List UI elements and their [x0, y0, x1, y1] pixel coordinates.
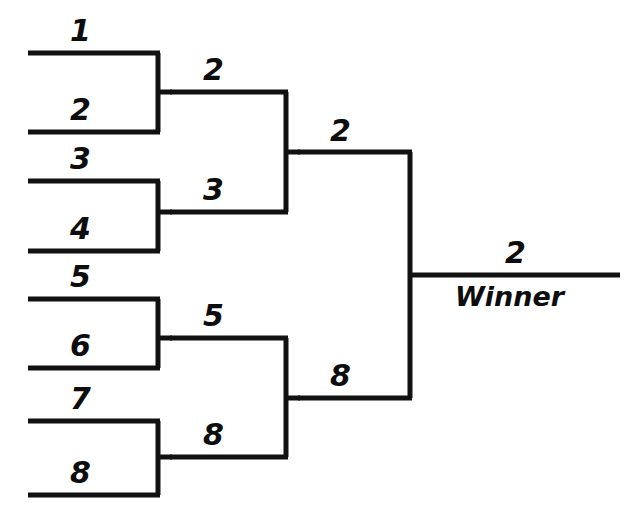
seed-label-2: 2 — [70, 95, 91, 125]
champion-label: 2 — [505, 238, 526, 268]
seed-label-6: 6 — [70, 331, 91, 361]
seed-label-8: 8 — [70, 458, 91, 488]
round2-winner-label-3: 5 — [203, 301, 224, 331]
round2-winner-label-1: 2 — [203, 55, 224, 85]
round2-winner-label-2: 3 — [203, 175, 224, 205]
seed-label-5: 5 — [70, 262, 91, 292]
seed-label-1: 1 — [70, 16, 91, 46]
winner-caption: Winner — [455, 283, 564, 310]
seed-label-7: 7 — [70, 384, 91, 414]
round2-winner-label-4: 8 — [203, 420, 224, 450]
bracket-lines — [0, 0, 633, 528]
round3-winner-label-2: 8 — [330, 361, 351, 391]
tournament-bracket-diagram: 1 2 3 4 5 6 7 8 2 3 5 8 2 8 2 Winner — [0, 0, 633, 528]
seed-label-3: 3 — [70, 144, 91, 174]
seed-label-4: 4 — [70, 214, 91, 244]
round3-winner-label-1: 2 — [330, 116, 351, 146]
